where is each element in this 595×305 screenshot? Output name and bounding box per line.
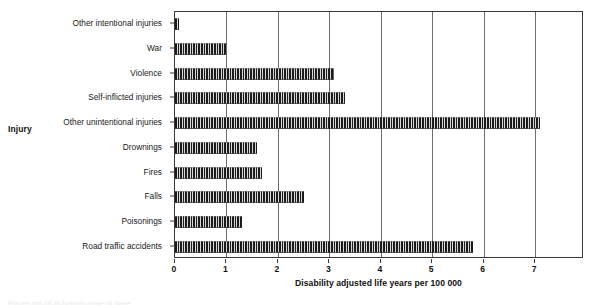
category-label: Self-inflicted injuries — [88, 92, 162, 102]
bar — [175, 93, 345, 104]
bar — [175, 19, 179, 30]
x-axis-tick-label: 4 — [377, 264, 382, 274]
x-axis-tick-label: 0 — [172, 264, 177, 274]
x-axis-tick-label: 7 — [532, 264, 537, 274]
y-axis-category-labels: Other intentional injuriesWarViolenceSel… — [0, 11, 170, 258]
bar — [175, 142, 257, 153]
x-axis-tick — [277, 259, 278, 263]
bottom-cutoff-caption: Figure cut off at bottom edge of page — [8, 299, 428, 305]
bar — [175, 216, 242, 227]
bar-chart: Injury Other intentional injuriesWarViol… — [0, 0, 595, 305]
bar — [175, 118, 540, 129]
x-axis-tick — [431, 259, 432, 263]
x-axis-tick — [483, 259, 484, 263]
category-label: Falls — [144, 191, 162, 201]
x-axis-tick-label: 6 — [480, 264, 485, 274]
plot-area — [174, 11, 583, 258]
category-label: Poisonings — [121, 216, 162, 226]
x-axis-tick-label: 5 — [429, 264, 434, 274]
category-label: War — [147, 43, 162, 53]
x-axis-tick — [328, 259, 329, 263]
bar — [175, 44, 226, 55]
bar — [175, 241, 473, 252]
x-axis-tick-label: 1 — [223, 264, 228, 274]
category-label: Fires — [144, 167, 162, 177]
x-axis-tick — [174, 259, 175, 263]
gridline — [381, 12, 382, 257]
category-label: Other intentional injuries — [73, 18, 162, 28]
x-axis-tick — [380, 259, 381, 263]
bar — [175, 167, 262, 178]
gridline — [329, 12, 330, 257]
category-label: Drownings — [123, 142, 162, 152]
x-axis-tick — [534, 259, 535, 263]
x-axis-tick-label: 2 — [275, 264, 280, 274]
bar — [175, 68, 334, 79]
category-label: Violence — [130, 68, 162, 78]
x-axis-tick — [225, 259, 226, 263]
gridline — [278, 12, 279, 257]
x-axis-tick-label: 3 — [326, 264, 331, 274]
x-axis-title: Disability adjusted life years per 100 0… — [174, 278, 583, 288]
bar — [175, 192, 304, 203]
category-label: Road traffic accidents — [82, 241, 162, 251]
category-label: Other unintentional injuries — [63, 117, 162, 127]
gridline — [484, 12, 485, 257]
gridline — [535, 12, 536, 257]
gridline — [432, 12, 433, 257]
